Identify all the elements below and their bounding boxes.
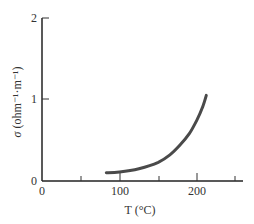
y-tick-label-0: 0 bbox=[31, 174, 37, 188]
chart: 2 1 0 0 100 200 T (°C) σ(ohm⁻¹·m⁻¹) bbox=[0, 0, 254, 224]
y-axis-sigma: σ bbox=[10, 130, 24, 137]
conductivity-curve bbox=[106, 95, 206, 172]
x-tick-label-100: 100 bbox=[111, 184, 129, 198]
y-axis-label: σ(ohm⁻¹·m⁻¹) bbox=[10, 67, 24, 138]
x-tick-label-200: 200 bbox=[188, 184, 206, 198]
y-tick-label-1: 1 bbox=[31, 92, 37, 106]
x-axis-label: T (°C) bbox=[125, 203, 156, 217]
y-axis-units: (ohm⁻¹·m⁻¹) bbox=[10, 67, 24, 129]
y-tick-label-2: 2 bbox=[31, 11, 37, 25]
x-tick-label-0: 0 bbox=[39, 184, 45, 198]
